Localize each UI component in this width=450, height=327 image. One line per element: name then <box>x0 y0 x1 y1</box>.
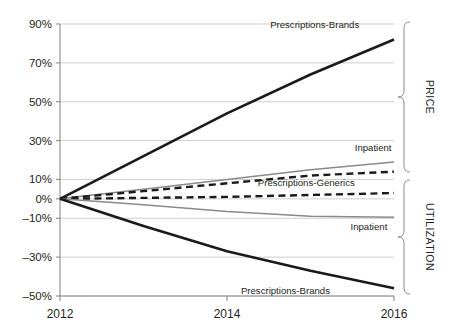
y-tick-label: –10% <box>23 212 52 224</box>
y-tick-label: –30% <box>23 251 52 263</box>
series-inline-label: Prescriptions-Brands <box>241 285 330 296</box>
y-tick-label: 50% <box>29 96 52 108</box>
chart-container: 90%70%50%30%10%0%–10%–30%–50% 2012201420… <box>0 0 450 327</box>
group-label-utilization: UTILIZATION <box>424 203 436 271</box>
y-tick-label: 0% <box>35 193 52 205</box>
x-tick-label: 2012 <box>47 307 74 321</box>
y-tick-label: 30% <box>29 135 52 147</box>
series-inline-label: Prescriptions-Generics <box>258 177 355 188</box>
group-label-price: PRICE <box>424 80 436 114</box>
x-tick-label: 2016 <box>381 307 408 321</box>
series-inline-label: Inpatient <box>351 221 388 232</box>
y-tick-label: –50% <box>23 290 52 302</box>
y-tick-label: 70% <box>29 57 52 69</box>
line-chart: 90%70%50%30%10%0%–10%–30%–50% 2012201420… <box>0 0 450 327</box>
y-tick-label: 90% <box>29 18 52 30</box>
x-tick-label: 2014 <box>214 307 241 321</box>
y-tick-label: 10% <box>29 173 52 185</box>
series-inline-label: Inpatient <box>355 142 392 153</box>
series-inline-label: Prescriptions-Brands <box>270 19 359 30</box>
